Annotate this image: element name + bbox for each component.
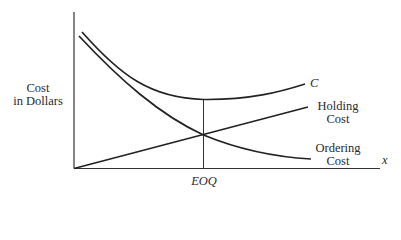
x-axis-label: x bbox=[382, 154, 388, 167]
ordering-cost-label-line2: Cost bbox=[313, 155, 363, 168]
ordering-cost-label: Ordering Cost bbox=[313, 142, 363, 168]
holding-cost-line bbox=[74, 107, 308, 169]
y-axis-label-line2: in Dollars bbox=[10, 95, 66, 108]
holding-cost-label: Holding Cost bbox=[315, 100, 361, 126]
y-axis-label: Cost in Dollars bbox=[10, 82, 66, 108]
total-cost-label: C bbox=[310, 77, 318, 90]
holding-cost-label-line2: Cost bbox=[315, 113, 361, 126]
ordering-cost-curve bbox=[79, 36, 311, 159]
eoq-label: EOQ bbox=[189, 175, 219, 188]
total-cost-curve bbox=[82, 32, 305, 100]
